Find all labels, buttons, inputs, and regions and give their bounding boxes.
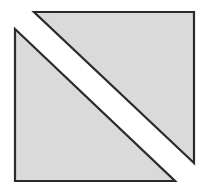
two-triangles-diagram — [0, 0, 208, 189]
figure-container — [0, 0, 208, 189]
